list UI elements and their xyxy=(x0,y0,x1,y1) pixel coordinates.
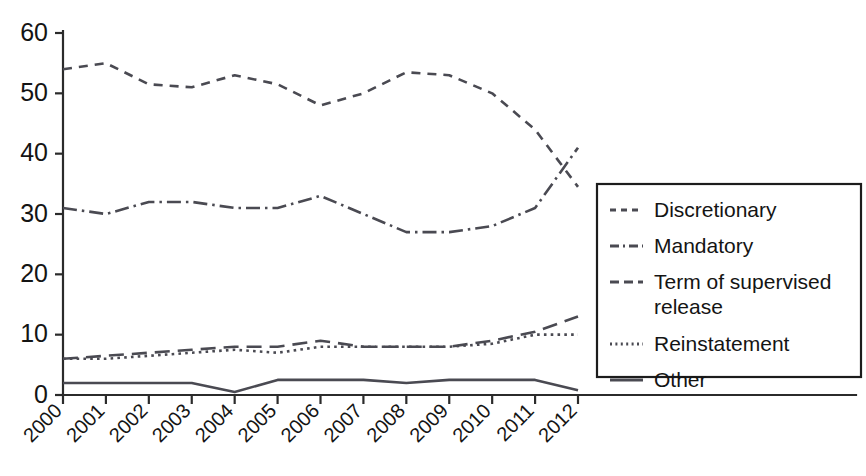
x-axis-labels: 2000200120022003200420052006200720082009… xyxy=(19,399,581,446)
series-line-term-of-supervised-release xyxy=(63,317,578,359)
y-tick-label: 40 xyxy=(20,138,48,166)
series-line-discretionary xyxy=(63,63,578,187)
x-tick-label: 2003 xyxy=(148,399,195,446)
line-chart: 0102030405060 20002001200220032004200520… xyxy=(0,0,866,476)
x-tick-label: 2001 xyxy=(62,399,109,446)
x-tick-label: 2002 xyxy=(105,399,152,446)
x-tick-label: 2011 xyxy=(492,399,538,445)
chart-legend: DiscretionaryMandatoryTerm of supervised… xyxy=(597,184,861,391)
x-tick-label: 2005 xyxy=(233,399,280,446)
x-tick-label: 2012 xyxy=(534,399,581,446)
y-tick-label: 30 xyxy=(20,199,48,227)
x-tick-label: 2007 xyxy=(319,399,366,446)
y-tick-label: 20 xyxy=(20,259,48,287)
y-tick-label: 50 xyxy=(20,78,48,106)
y-axis-labels: 0102030405060 xyxy=(20,18,48,408)
x-axis-ticks xyxy=(63,395,578,404)
chart-canvas: 0102030405060 20002001200220032004200520… xyxy=(0,0,866,476)
y-axis-ticks xyxy=(55,33,63,395)
y-tick-label: 60 xyxy=(20,18,48,46)
legend-label: Mandatory xyxy=(654,234,754,257)
legend-label: Term of supervised xyxy=(654,270,831,293)
series-line-mandatory xyxy=(63,148,578,232)
y-tick-label: 10 xyxy=(20,319,48,347)
x-tick-label: 2008 xyxy=(362,399,409,446)
legend-label: Other xyxy=(654,368,707,391)
x-tick-label: 2010 xyxy=(448,399,495,446)
x-tick-label: 2004 xyxy=(190,399,237,446)
legend-label: Discretionary xyxy=(654,198,777,221)
legend-label-cont: release xyxy=(654,295,723,318)
series-group xyxy=(63,63,578,392)
legend-label: Reinstatement xyxy=(654,332,790,355)
x-tick-label: 2009 xyxy=(405,399,452,446)
x-tick-label: 2006 xyxy=(276,399,323,446)
series-line-other xyxy=(63,380,578,392)
x-tick-label: 2000 xyxy=(19,399,66,446)
